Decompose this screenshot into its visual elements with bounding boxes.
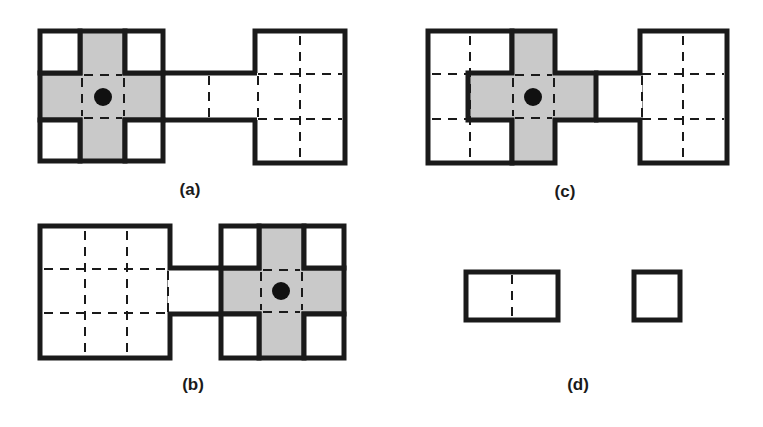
panel-b-label: (b) [182,375,204,394]
panel-c-corridor [594,73,642,120]
panel-a-right-rect [255,31,345,163]
panel-c: (c) [428,31,727,201]
panel-a-corner-tr [125,31,163,73]
panel-c-center-dot [524,88,542,106]
panel-b-corridor [168,268,223,314]
panel-b-corner-tr [304,226,344,268]
panel-b: (b) [40,226,344,394]
panel-d-small-square [634,272,680,320]
panel-a-corner-tl [40,31,80,73]
panel-b-center-dot [272,282,290,300]
figure-canvas: (a) [0,0,763,427]
panel-b-corner-br [304,314,344,358]
panel-c-right-rect [640,31,727,163]
panel-b-left-rect [40,226,170,358]
figure-root: (a) [0,0,763,427]
panel-a-center-dot [94,88,112,106]
panel-a-corner-br [125,120,163,161]
panel-b-corner-tl [221,226,259,268]
panel-a-corner-bl [40,120,80,161]
panel-a-label: (a) [180,180,201,199]
panel-d-label: (d) [567,375,589,394]
panel-b-corner-bl [221,314,259,358]
panel-d: (d) [466,272,680,394]
panel-a: (a) [40,31,345,199]
panel-c-label: (c) [555,182,576,201]
